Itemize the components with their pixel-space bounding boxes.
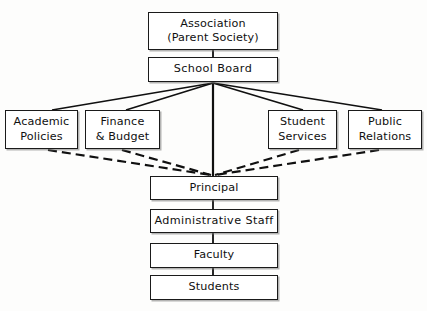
edge-school-board-academic-policies: [52, 83, 213, 110]
node-finance-budget[interactable]: Finance & Budget: [85, 110, 160, 149]
node-faculty[interactable]: Faculty: [150, 243, 278, 268]
edge-school-board-student-services: [213, 83, 303, 110]
node-student-services-label: Student Services: [275, 115, 329, 144]
edge-student-services-principal: [215, 150, 299, 175]
node-finance-budget-label: Finance & Budget: [93, 115, 153, 144]
edge-academic-policies-principal: [48, 150, 211, 175]
node-administrative-staff[interactable]: Administrative Staff: [150, 209, 278, 233]
node-principal-label: Principal: [186, 181, 241, 195]
node-students[interactable]: Students: [150, 275, 278, 300]
node-academic-policies[interactable]: Academic Policies: [5, 110, 78, 149]
node-academic-policies-label: Academic Policies: [11, 115, 73, 144]
node-administrative-staff-label: Administrative Staff: [151, 214, 276, 228]
edge-finance-budget-principal: [122, 150, 211, 175]
node-public-relations[interactable]: Public Relations: [348, 110, 422, 149]
node-faculty-label: Faculty: [191, 248, 238, 262]
edge-school-board-public-relations: [213, 83, 382, 110]
node-principal[interactable]: Principal: [150, 176, 278, 200]
edge-school-board-finance-budget: [126, 83, 213, 110]
edge-public-relations-principal: [215, 150, 379, 175]
node-association-label: Association (Parent Society): [164, 17, 262, 46]
node-student-services[interactable]: Student Services: [268, 110, 337, 149]
node-students-label: Students: [185, 280, 242, 294]
node-association[interactable]: Association (Parent Society): [148, 12, 278, 50]
org-chart: Association (Parent Society) School Boar…: [0, 0, 427, 311]
node-public-relations-label: Public Relations: [356, 115, 415, 144]
node-school-board-label: School Board: [171, 62, 255, 76]
node-school-board[interactable]: School Board: [148, 57, 278, 82]
